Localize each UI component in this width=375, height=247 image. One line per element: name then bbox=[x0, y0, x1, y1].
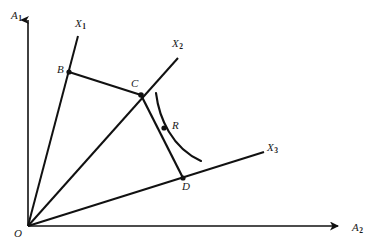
axis-label-a1-subscript: 1 bbox=[18, 14, 22, 23]
ray-label-x2-subscript: 2 bbox=[179, 42, 183, 51]
ray-label-x3-subscript: 3 bbox=[274, 146, 278, 155]
point-b-marker bbox=[66, 69, 71, 74]
point-label-b: B bbox=[57, 64, 64, 75]
ray-x3 bbox=[28, 152, 264, 226]
ray-label-x2-letter: X bbox=[172, 37, 179, 49]
segment-c-d bbox=[141, 95, 183, 178]
diagram-canvas bbox=[0, 0, 375, 247]
point-label-c: C bbox=[131, 78, 138, 89]
point-r-marker bbox=[161, 125, 166, 130]
axis-label-a1-letter: A bbox=[11, 9, 18, 21]
point-label-r: R bbox=[172, 120, 179, 131]
ray-label-x3-letter: X bbox=[267, 141, 274, 153]
ray-label-x1-letter: X bbox=[75, 17, 82, 29]
ray-label-x3: X3 bbox=[267, 142, 277, 153]
point-label-d: D bbox=[182, 181, 190, 192]
axis-label-a2: A2 bbox=[352, 222, 362, 233]
geometric-diagram: A1 A2 O X1 X2 X3 B C R D bbox=[0, 0, 375, 247]
axis-label-a1: A1 bbox=[11, 10, 21, 21]
axis-label-a2-subscript: 2 bbox=[359, 226, 363, 235]
ray-label-x1-subscript: 1 bbox=[82, 22, 86, 31]
ray-label-x2: X2 bbox=[172, 38, 182, 49]
point-c-marker bbox=[138, 92, 144, 98]
ray-label-x1: X1 bbox=[75, 18, 85, 29]
axis-label-a2-letter: A bbox=[352, 221, 359, 233]
point-label-o: O bbox=[14, 228, 22, 239]
